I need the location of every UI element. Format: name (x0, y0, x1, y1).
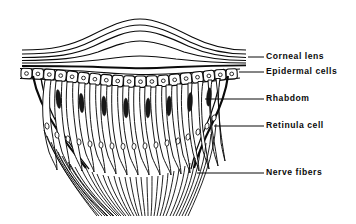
lens-lamella-3 (22, 31, 246, 58)
label-nerve-fibers: Nerve fibers (266, 167, 322, 177)
epidermal-cell (135, 76, 146, 87)
nerve-fiber (151, 176, 152, 216)
epidermal-cell (43, 69, 55, 80)
epidermal-cell (66, 71, 78, 83)
epidermal-cells-group (20, 68, 240, 87)
lens-lamella-4 (22, 41, 246, 61)
label-retinula-cell: Retinula cell (266, 120, 324, 130)
retinula-nucleus (165, 140, 170, 147)
rhabdom (206, 88, 212, 107)
retinula-nucleus (154, 142, 158, 148)
retinula-nucleus (66, 136, 71, 143)
retinula-nucleus (211, 115, 216, 122)
ommatidium-figure: Corneal lens Epidermal cells Rhabdom Ret… (0, 0, 356, 224)
rhabdom (123, 98, 128, 118)
retinula-cell (216, 79, 225, 162)
retinula-nucleus (176, 138, 181, 145)
epidermal-cell (55, 70, 67, 82)
epidermal-cell (89, 73, 101, 85)
lens-lamella-2 (22, 25, 246, 54)
retinula-nucleus (132, 143, 136, 149)
retinula-nucleus (195, 129, 200, 136)
labels-group: Corneal lens Epidermal cells Rhabdom Ret… (266, 51, 337, 177)
retinula-nucleus (77, 139, 82, 146)
retinula-nucleus (143, 143, 147, 149)
corneal-lens-group (22, 19, 246, 68)
label-corneal-lens: Corneal lens (266, 51, 324, 61)
epidermal-cell (21, 68, 32, 78)
retinula-nucleus (99, 142, 103, 148)
epidermal-cell (77, 72, 89, 84)
diagram-canvas: Corneal lens Epidermal cells Rhabdom Ret… (0, 0, 356, 224)
retinula-nucleus (110, 143, 114, 149)
label-epidermal-cells: Epidermal cells (266, 66, 337, 76)
nerve-fiber (141, 177, 145, 216)
rhabdom (145, 98, 150, 118)
retinula-cells-group (43, 79, 225, 176)
lens-lamella-1 (22, 19, 246, 50)
nerve-fiber (147, 177, 148, 216)
nerve-fiber (154, 176, 158, 216)
label-rhabdom: Rhabdom (266, 93, 309, 103)
lens-base-line (22, 65, 246, 68)
epidermal-cell (100, 74, 112, 86)
retinula-nucleus (186, 134, 191, 141)
retinula-nucleus (88, 141, 92, 147)
retinula-nucleus (121, 143, 125, 149)
